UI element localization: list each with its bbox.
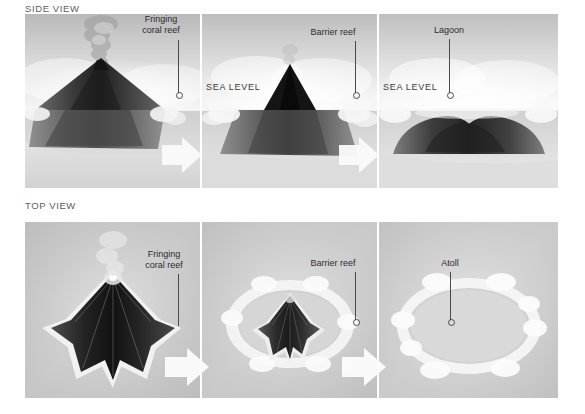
top-transition-arrow-2 bbox=[340, 345, 388, 393]
leader-dot-atoll-top bbox=[448, 319, 455, 326]
annotation-line-1: Barrier reef bbox=[295, 258, 371, 269]
lagoon-interior bbox=[411, 290, 527, 362]
side-transition-arrow-2 bbox=[337, 135, 381, 179]
annotation-line-1: Barrier reef bbox=[296, 27, 370, 38]
top-transition-arrow-1 bbox=[163, 345, 211, 393]
leader-line-barrier-reef-top bbox=[355, 272, 356, 320]
annotation-line-2: coral reef bbox=[128, 260, 200, 271]
leader-line-barrier-reef-side bbox=[355, 41, 356, 93]
annotation-line-2: coral reef bbox=[126, 25, 196, 36]
leader-dot-fringing-coral-reef-side bbox=[176, 92, 183, 99]
annotation-fringing-coral-reef-top: Fringing coral reef bbox=[128, 249, 200, 271]
side-transition-arrow-1 bbox=[160, 135, 204, 179]
leader-dot-lagoon-side bbox=[447, 92, 454, 99]
annotation-atoll-top: Atoll bbox=[414, 258, 486, 269]
annotation-line-1: Atoll bbox=[414, 258, 486, 269]
leader-dot-barrier-reef-side bbox=[353, 92, 360, 99]
sea-level-label-stage-2: SEA LEVEL bbox=[206, 82, 260, 92]
top-stage-3-illustration bbox=[379, 222, 558, 398]
leader-line-lagoon-side bbox=[449, 39, 450, 93]
side-view-panel-stage-3 bbox=[379, 14, 558, 188]
sea-level-label-stage-3: SEA LEVEL bbox=[383, 82, 437, 92]
annotation-line-1: Fringing bbox=[128, 249, 200, 260]
top-view-panel-stage-3 bbox=[379, 222, 558, 398]
annotation-fringing-coral-reef-side: Fringing coral reef bbox=[126, 14, 196, 36]
annotation-line-1: Lagoon bbox=[412, 25, 486, 36]
side-view-row-label: SIDE VIEW bbox=[25, 3, 80, 14]
side-stage-3-illustration bbox=[379, 14, 558, 188]
annotation-barrier-reef-top: Barrier reef bbox=[295, 258, 371, 269]
top-view-row-label: TOP VIEW bbox=[25, 200, 76, 211]
leader-line-fringing-coral-reef-top bbox=[178, 274, 179, 326]
annotation-line-1: Fringing bbox=[126, 14, 196, 25]
leader-line-atoll-top bbox=[450, 272, 451, 320]
annotation-barrier-reef-side: Barrier reef bbox=[296, 27, 370, 38]
leader-dot-barrier-reef-top bbox=[353, 319, 360, 326]
diagram-canvas: SIDE VIEW bbox=[0, 0, 585, 414]
annotation-lagoon-side: Lagoon bbox=[412, 25, 486, 36]
leader-line-fringing-coral-reef-side bbox=[178, 40, 179, 93]
